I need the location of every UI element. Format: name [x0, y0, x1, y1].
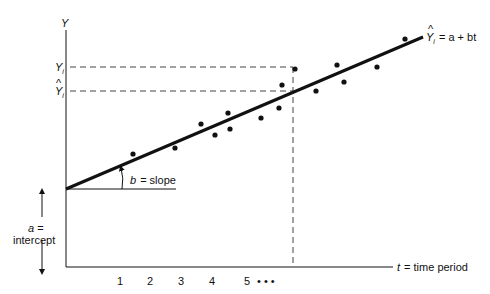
- svg-text:3: 3: [178, 275, 184, 287]
- x-tick-labels: 1 2 3 4 5 • • •: [117, 275, 275, 287]
- regression-equation: Yi= a + bt: [426, 31, 476, 45]
- intercept-label-text: intercept: [13, 234, 55, 246]
- regression-diagram: Y Yi ^ Yi ^ Yi= a + bt b= slope a= inter…: [0, 0, 490, 294]
- intercept-label-var: a=: [28, 222, 44, 234]
- svg-text:• • •: • • •: [257, 275, 275, 287]
- yhat-label: Yi: [55, 85, 64, 99]
- slope-label: b= slope: [130, 174, 176, 186]
- svg-text:4: 4: [209, 275, 215, 287]
- svg-text:1: 1: [117, 275, 123, 287]
- svg-text:5: 5: [244, 275, 250, 287]
- svg-text:2: 2: [147, 275, 153, 287]
- y-axis-label: Y: [61, 17, 69, 29]
- yi-label: Yi: [55, 61, 64, 75]
- slope-arc-icon: [121, 168, 123, 189]
- data-points: [130, 36, 407, 156]
- x-axis-label: t= time period: [397, 261, 468, 273]
- regression-line: [66, 37, 423, 189]
